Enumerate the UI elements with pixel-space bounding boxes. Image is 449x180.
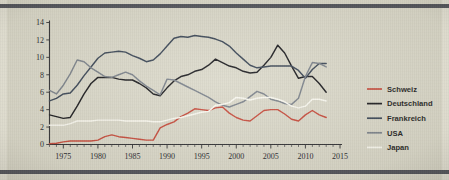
line-chart: 02468101214 1975198019851990199520002005…: [0, 0, 449, 180]
x-tick-label: 2000: [228, 152, 244, 161]
y-tick-label: 10: [36, 53, 44, 62]
chart-legend: SchweizDeutschlandFrankreichUSAJapan: [367, 85, 433, 152]
y-axis-tick-labels: 02468101214: [36, 18, 44, 149]
legend-label-usa: USA: [387, 129, 404, 138]
series-line-japan: [50, 97, 327, 125]
y-tick-label: 8: [40, 71, 44, 80]
top-rule: [0, 4, 449, 8]
y-tick-label: 14: [36, 18, 44, 27]
x-tick-label: 2005: [263, 152, 279, 161]
x-tick-label: 2010: [297, 152, 313, 161]
series-line-deutschland: [50, 45, 327, 118]
chart-axes: [50, 21, 343, 145]
y-tick-label: 6: [40, 88, 44, 97]
chart-page: 02468101214 1975198019851990199520002005…: [0, 0, 449, 180]
page-right-margin: [442, 0, 449, 180]
x-tick-label: 1995: [194, 152, 210, 161]
x-tick-label: 1985: [125, 152, 141, 161]
legend-label-schweiz: Schweiz: [387, 85, 417, 94]
x-axis-tick-labels: 197519801985199019952000200520102015: [55, 152, 348, 161]
y-tick-label: 0: [40, 140, 44, 149]
y-tick-label: 2: [40, 123, 44, 132]
x-axis-ticks: [50, 145, 341, 149]
x-tick-label: 1990: [159, 152, 175, 161]
x-tick-label: 1975: [55, 152, 71, 161]
page-left-margin: [0, 0, 7, 180]
bottom-rule: [0, 170, 449, 174]
y-tick-label: 4: [40, 105, 44, 114]
x-tick-label: 1980: [90, 152, 106, 161]
legend-label-deutschland: Deutschland: [387, 99, 433, 108]
legend-label-japan: Japan: [387, 143, 409, 152]
series-group: [50, 36, 327, 144]
x-tick-label: 2015: [332, 152, 348, 161]
legend-label-frankreich: Frankreich: [387, 114, 426, 123]
series-line-schweiz: [50, 107, 327, 144]
chart-svg: 02468101214 1975198019851990199520002005…: [0, 0, 449, 180]
y-tick-label: 12: [36, 36, 44, 45]
